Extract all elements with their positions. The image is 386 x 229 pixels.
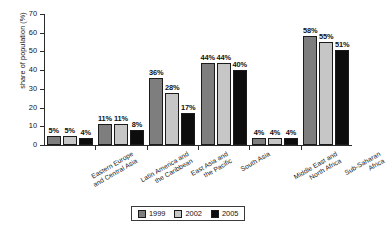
bar-2005[interactable] xyxy=(79,138,93,145)
y-tick-label-10: 10 xyxy=(29,121,37,130)
bar-1999[interactable] xyxy=(303,36,317,145)
bar-group: 36%28%17% xyxy=(147,14,198,145)
y-tick-label-70: 70 xyxy=(29,9,37,18)
bar-group: 4%4%4% xyxy=(249,14,300,145)
bar-value-label: 44% xyxy=(216,53,231,62)
bar-1999[interactable] xyxy=(149,78,163,145)
category-label-line: South Asia xyxy=(239,150,271,173)
bar-2005[interactable] xyxy=(181,113,195,145)
bar-item[interactable]: 44% xyxy=(217,14,231,145)
category-label: South Asia xyxy=(239,150,271,173)
bar-item[interactable]: 28% xyxy=(165,14,179,145)
bar-item[interactable]: 40% xyxy=(233,14,247,145)
y-tick-label-50: 50 xyxy=(29,46,37,55)
bar-item[interactable]: 51% xyxy=(335,14,349,145)
bar-1999[interactable] xyxy=(47,136,61,145)
bar-item[interactable]: 17% xyxy=(181,14,195,145)
bar-value-label: 5% xyxy=(64,126,74,135)
bar-2002[interactable] xyxy=(268,138,282,145)
bars: 44%44%40% xyxy=(198,14,249,145)
y-tick-label-60: 60 xyxy=(29,28,37,37)
legend-item-2002: 2002 xyxy=(174,209,201,218)
bar-item[interactable]: 4% xyxy=(284,14,298,145)
bar-value-label: 17% xyxy=(181,103,196,112)
bar-item[interactable]: 5% xyxy=(63,14,77,145)
bar-item[interactable]: 36% xyxy=(149,14,163,145)
legend-item-2005: 2005 xyxy=(211,209,238,218)
bar-item[interactable]: 58% xyxy=(303,14,317,145)
bar-group: 44%44%40% xyxy=(198,14,249,145)
legend-swatch-2002 xyxy=(174,210,182,218)
bar-2005[interactable] xyxy=(233,70,247,145)
plot-area: 010203040506070 5%5%4%11%11%8%36%28%17%4… xyxy=(44,14,352,145)
bar-value-label: 11% xyxy=(98,114,112,123)
y-tick-label-40: 40 xyxy=(29,65,37,74)
bar-item[interactable]: 4% xyxy=(252,14,266,145)
x-tick-5 xyxy=(301,145,302,150)
bar-2002[interactable] xyxy=(319,42,333,145)
bar-2002[interactable] xyxy=(63,136,77,145)
category-label: Sub-SaharanAfrica xyxy=(343,150,386,184)
bars: 11%11%8% xyxy=(95,14,146,145)
bar-value-label: 40% xyxy=(232,60,247,69)
y-tick-label-30: 30 xyxy=(29,84,37,93)
x-tick-1 xyxy=(95,145,96,150)
bar-2002[interactable] xyxy=(114,124,128,145)
bars: 4%4%4% xyxy=(249,14,300,145)
bar-1999[interactable] xyxy=(201,63,215,145)
chart-legend: 1999 2002 2005 xyxy=(131,206,245,221)
x-tick-2 xyxy=(147,145,148,150)
bar-2005[interactable] xyxy=(130,130,144,145)
bar-item[interactable]: 8% xyxy=(130,14,144,145)
y-tick-label-20: 20 xyxy=(29,103,37,112)
bar-item[interactable]: 11% xyxy=(114,14,128,145)
bar-value-label: 36% xyxy=(149,68,164,77)
y-tick-0: 0 xyxy=(40,145,45,146)
category-label: East Asia andthe Pacific xyxy=(189,150,233,185)
bar-item[interactable]: 5% xyxy=(47,14,61,145)
bar-item[interactable]: 4% xyxy=(79,14,93,145)
bar-value-label: 44% xyxy=(200,53,215,62)
bar-value-label: 8% xyxy=(132,120,142,129)
bar-group: 58%55%51% xyxy=(301,14,352,145)
bar-group: 11%11%8% xyxy=(95,14,146,145)
bar-1999[interactable] xyxy=(98,124,112,145)
bar-value-label: 5% xyxy=(48,126,58,135)
y-axis-label: share of population (%) xyxy=(18,0,27,121)
category-label: Latin America andthe Caribbean xyxy=(140,150,195,191)
bars: 58%55%51% xyxy=(301,14,352,145)
bar-2002[interactable] xyxy=(217,63,231,145)
bar-2005[interactable] xyxy=(284,138,298,145)
bar-value-label: 55% xyxy=(319,32,334,41)
bar-item[interactable]: 4% xyxy=(268,14,282,145)
bar-2005[interactable] xyxy=(335,50,349,145)
legend-item-1999: 1999 xyxy=(138,209,165,218)
category-label: Eastern Europeand Central Asia xyxy=(88,150,139,189)
bar-group: 5%5%4% xyxy=(44,14,95,145)
bar-item[interactable]: 55% xyxy=(319,14,333,145)
bar-item[interactable]: 11% xyxy=(98,14,112,145)
legend-label-1999: 1999 xyxy=(149,209,165,218)
legend-label-2005: 2005 xyxy=(222,209,238,218)
bar-value-label: 58% xyxy=(303,26,318,35)
bars: 36%28%17% xyxy=(147,14,198,145)
legend-swatch-2005 xyxy=(211,210,219,218)
bar-item[interactable]: 44% xyxy=(201,14,215,145)
bar-value-label: 4% xyxy=(80,128,90,137)
bar-2002[interactable] xyxy=(165,93,179,145)
bar-value-label: 51% xyxy=(335,40,350,49)
y-tick-label-0: 0 xyxy=(33,140,37,149)
x-tick-3 xyxy=(198,145,199,150)
legend-swatch-1999 xyxy=(138,210,146,218)
bar-value-label: 4% xyxy=(270,128,280,137)
x-tick-4 xyxy=(249,145,250,150)
bar-value-label: 28% xyxy=(165,83,180,92)
bar-value-label: 4% xyxy=(286,128,296,137)
category-label: Middle East andNorth Africa xyxy=(293,150,343,188)
bars: 5%5%4% xyxy=(44,14,95,145)
bar-1999[interactable] xyxy=(252,138,266,145)
legend-label-2002: 2002 xyxy=(185,209,201,218)
bar-value-label: 11% xyxy=(114,114,128,123)
bar-value-label: 4% xyxy=(254,128,264,137)
